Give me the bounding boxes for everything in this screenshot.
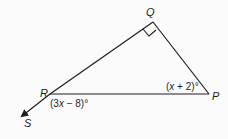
triangle-diagram: Q R P S (3x − 8)° (x + 2)° [0,0,228,139]
diagram-canvas: Q R P S (3x − 8)° (x + 2)° [0,0,228,139]
angle-label-p: (x + 2)° [166,81,199,92]
side-rq [50,22,153,94]
vertex-label-p: P [212,90,220,102]
vertex-label-r: R [40,87,48,99]
angle-label-r: (3x − 8)° [50,98,88,109]
ray-label-s: S [24,117,32,129]
vertex-label-q: Q [146,6,155,18]
right-angle-mark [143,29,156,36]
